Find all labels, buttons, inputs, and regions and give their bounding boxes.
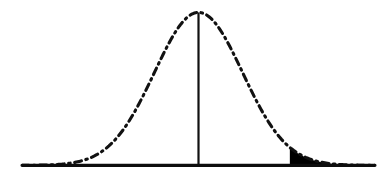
distribution-chart-svg	[0, 0, 391, 195]
normal-curve-figure	[0, 0, 391, 195]
shaded-right-tail-region	[290, 147, 375, 165]
